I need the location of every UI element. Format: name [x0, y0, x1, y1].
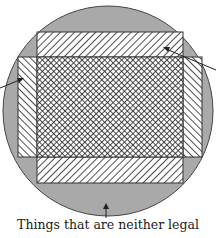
overlap-center — [37, 57, 183, 157]
caption-label: Things that are neither legal — [0, 218, 216, 232]
right-hatched-band — [183, 57, 202, 157]
left-hatched-band — [18, 57, 37, 157]
diagram-canvas — [0, 0, 216, 238]
top-hatched-band — [37, 32, 183, 57]
bottom-hatched-band — [37, 157, 183, 183]
